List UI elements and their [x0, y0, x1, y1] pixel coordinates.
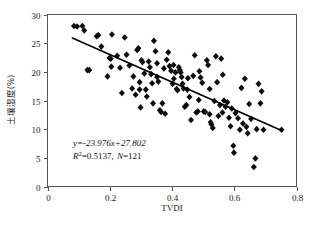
data-point — [161, 65, 167, 72]
regression-equation-label: y=-23.976x+27.802 — [72, 138, 146, 148]
data-point — [207, 86, 213, 93]
data-point — [230, 142, 236, 149]
data-point — [171, 62, 177, 69]
data-point — [159, 100, 165, 107]
y-axis-title: 土壤湿度(%) — [6, 75, 16, 126]
data-point — [165, 49, 171, 56]
data-point — [98, 43, 104, 50]
y-tick-label: 15 — [32, 97, 42, 107]
y-tick-label: 0 — [36, 183, 41, 193]
y-axis-tick-labels: 051015202530 — [32, 11, 42, 193]
data-point — [130, 73, 136, 80]
data-point — [192, 52, 198, 59]
data-point — [171, 75, 177, 82]
x-axis-tick-labels: 00.20.40.60.8 — [46, 193, 303, 203]
data-point — [259, 88, 265, 95]
n-value: =121 — [123, 151, 142, 161]
data-point — [124, 51, 130, 58]
y-tick-label: 10 — [32, 125, 42, 135]
r-squared-and-n-label: R2=0.5137,N=121 — [72, 150, 141, 161]
y-tick-label: 5 — [36, 154, 41, 164]
data-point — [122, 34, 128, 41]
data-point — [252, 155, 258, 162]
regression-trend-line — [72, 38, 281, 130]
data-point — [185, 75, 191, 82]
scatter-plot: 00.20.40.60.8 051015202530 TVDI 土壤湿度(%) … — [0, 0, 320, 225]
data-point — [256, 81, 262, 88]
data-point — [138, 104, 144, 111]
data-point — [231, 149, 237, 156]
x-tick-label: 0.8 — [292, 193, 304, 203]
data-point — [245, 130, 251, 137]
x-axis-tick-marks — [49, 187, 298, 191]
data-point — [143, 86, 149, 93]
data-point — [242, 75, 248, 82]
data-point — [137, 86, 143, 93]
figure-container: 00.20.40.60.8 051015202530 TVDI 土壤湿度(%) … — [0, 0, 320, 225]
x-tick-label: 0.4 — [167, 193, 179, 203]
data-point — [198, 74, 204, 81]
data-point — [164, 56, 170, 63]
data-point — [246, 101, 252, 108]
data-point — [190, 73, 196, 80]
data-point — [149, 80, 155, 87]
data-point — [186, 94, 192, 101]
data-point — [119, 90, 125, 97]
data-point-markers — [71, 23, 285, 171]
data-point — [261, 126, 267, 133]
data-point — [238, 85, 244, 92]
y-tick-label: 20 — [32, 68, 42, 78]
data-point — [137, 79, 143, 86]
data-point — [196, 97, 202, 104]
data-point — [226, 114, 232, 121]
data-point — [105, 73, 111, 80]
y-axis-tick-marks — [44, 16, 48, 188]
x-axis-title: TVDI — [161, 203, 183, 213]
data-point — [153, 48, 159, 55]
data-point — [257, 100, 263, 107]
data-point — [196, 68, 202, 75]
data-point — [147, 64, 153, 71]
data-point — [188, 117, 194, 124]
data-point — [218, 55, 224, 62]
r-squared-value: =0.5137, — [82, 151, 114, 161]
data-point — [129, 85, 135, 92]
data-point — [151, 38, 157, 45]
data-point — [117, 65, 123, 72]
data-point — [144, 93, 150, 100]
data-point — [109, 31, 115, 38]
y-tick-label: 30 — [32, 11, 42, 21]
x-tick-label: 0.2 — [105, 193, 116, 203]
data-point — [108, 63, 114, 70]
data-point — [150, 100, 156, 107]
x-tick-label: 0.6 — [229, 193, 241, 203]
data-point — [146, 58, 152, 65]
data-point — [214, 79, 220, 86]
data-point — [237, 126, 243, 133]
x-tick-label: 0 — [46, 193, 51, 203]
data-point — [133, 91, 139, 98]
data-point — [213, 53, 219, 60]
data-point — [179, 74, 185, 81]
data-point — [251, 164, 257, 171]
data-point — [220, 71, 226, 78]
data-point — [199, 79, 205, 86]
data-point — [154, 60, 160, 67]
y-tick-label: 25 — [32, 39, 42, 49]
data-point — [254, 126, 260, 133]
data-point — [228, 123, 234, 130]
